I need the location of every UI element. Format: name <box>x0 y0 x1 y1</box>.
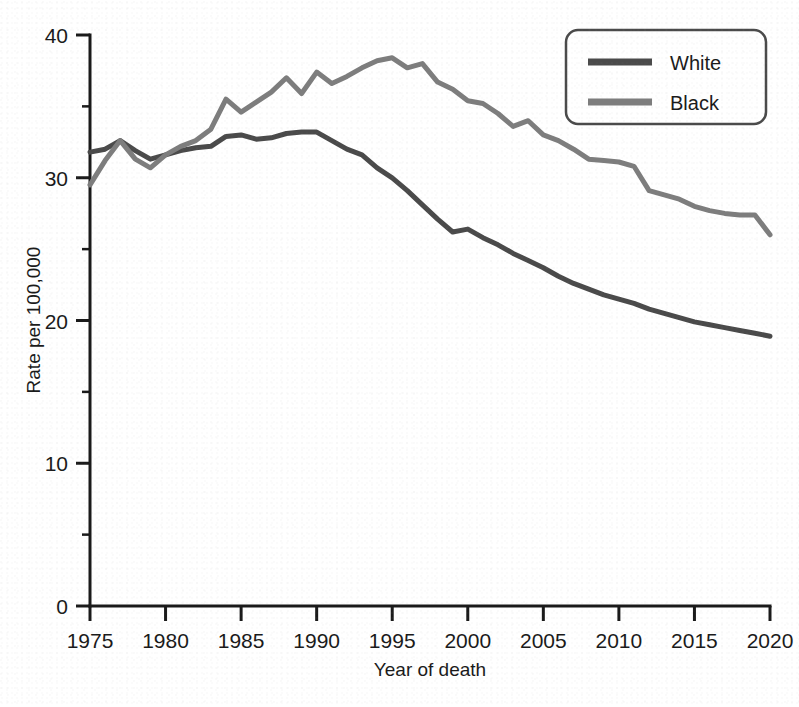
x-tick-label-2020: 2020 <box>747 629 794 652</box>
legend-label-white: White <box>670 52 721 74</box>
x-tick-label-2000: 2000 <box>444 629 491 652</box>
x-tick-label-2015: 2015 <box>671 629 718 652</box>
y-axis-title: Rate per 100,000 <box>23 247 44 394</box>
y-tick-label-30: 30 <box>45 167 68 190</box>
y-tick-label-10: 10 <box>45 452 68 475</box>
legend-label-black: Black <box>670 92 720 114</box>
x-tick-label-1980: 1980 <box>142 629 189 652</box>
x-tick-label-2010: 2010 <box>596 629 643 652</box>
x-tick-label-1990: 1990 <box>293 629 340 652</box>
line-chart: 010203040 Rate per 100,000 1975198019851… <box>0 0 799 707</box>
x-tick-label-2005: 2005 <box>520 629 567 652</box>
y-tick-label-40: 40 <box>45 24 68 47</box>
x-tick-label-1975: 1975 <box>67 629 114 652</box>
y-tick-label-20: 20 <box>45 310 68 333</box>
y-tick-label-0: 0 <box>56 595 68 618</box>
legend-frame <box>566 30 766 124</box>
x-axis-title: Year of death <box>374 659 486 680</box>
x-tick-label-1985: 1985 <box>218 629 265 652</box>
chart-figure: 010203040 Rate per 100,000 1975198019851… <box>0 0 799 707</box>
x-tick-label-1995: 1995 <box>369 629 416 652</box>
chart-legend: WhiteBlack <box>566 30 766 124</box>
